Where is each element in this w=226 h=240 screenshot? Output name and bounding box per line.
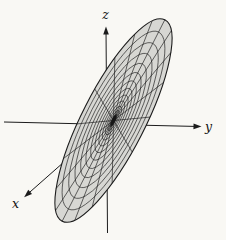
z-axis-label: z [101,7,109,22]
figure-page: z y x [0,0,226,240]
y-axis-label: y [204,119,213,134]
x-axis-label: x [12,196,19,211]
3d-disk-figure: z y x [0,0,226,240]
disk-mesh-group [34,6,193,236]
z_axis-arrowhead [103,27,109,35]
disk-mesh-layer [34,6,193,236]
y_axis-arrowhead [193,124,201,130]
